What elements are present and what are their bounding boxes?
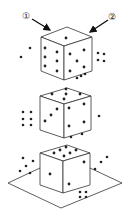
loose-dot (70, 136, 73, 139)
loose-dot (80, 75, 83, 78)
pip (69, 152, 72, 155)
loose-dot (32, 160, 35, 163)
dice-stack (40, 27, 92, 193)
pip (65, 88, 68, 91)
loose-dot (29, 47, 32, 50)
bottom-die (40, 145, 90, 193)
loose-dot (97, 52, 100, 55)
loose-dot (98, 115, 101, 118)
pip (56, 70, 59, 73)
pip (49, 173, 52, 176)
pip (44, 47, 47, 50)
loose-dot (76, 77, 79, 80)
pip (56, 51, 59, 54)
pip (51, 93, 54, 96)
pip (68, 183, 71, 186)
loose-dot (19, 170, 22, 173)
pip (44, 120, 47, 123)
pip (56, 60, 59, 63)
pip (83, 49, 86, 52)
pip (75, 149, 78, 152)
pip (65, 146, 68, 149)
loose-dot (22, 118, 25, 121)
loose-dot (85, 196, 88, 199)
loose-dot (30, 124, 33, 127)
pip (83, 161, 86, 164)
loose-dot (100, 161, 103, 164)
pip (65, 37, 68, 40)
loose-dot (22, 124, 25, 127)
loose-dot (94, 168, 97, 171)
pip (68, 125, 71, 128)
pip (56, 108, 59, 111)
loose-dot (79, 191, 82, 194)
loose-dot (30, 118, 33, 121)
loose-dot (20, 56, 23, 59)
view-label-1: ① (22, 11, 30, 21)
loose-dot (29, 172, 32, 175)
loose-dot (84, 73, 87, 76)
view-arrow-2 (90, 20, 108, 32)
pip (76, 60, 79, 63)
pip (68, 107, 71, 110)
pip (63, 155, 66, 158)
loose-dot (85, 191, 88, 194)
loose-dot (25, 165, 28, 168)
pip (83, 121, 86, 124)
pip (83, 103, 86, 106)
view-label-2: ② (108, 12, 116, 22)
loose-dot (106, 156, 109, 159)
middle-die (40, 88, 91, 138)
loose-dot (81, 133, 84, 136)
loose-dot (22, 157, 25, 160)
dice-diagram (0, 0, 132, 214)
loose-dot (97, 59, 100, 62)
loose-dot (22, 111, 25, 114)
pip (59, 149, 62, 152)
pip (53, 152, 56, 155)
loose-dot (30, 111, 33, 114)
pip (69, 53, 72, 56)
loose-dot (103, 53, 106, 56)
view-arrow-1 (32, 19, 50, 30)
pip (79, 93, 82, 96)
pip (83, 66, 86, 69)
pip (44, 56, 47, 59)
pip (50, 114, 53, 117)
pip (65, 93, 68, 96)
loose-dot (79, 196, 82, 199)
pip (69, 70, 72, 73)
loose-dot (103, 60, 106, 63)
top-die (41, 27, 92, 80)
pip (44, 65, 47, 68)
pip (63, 98, 66, 101)
